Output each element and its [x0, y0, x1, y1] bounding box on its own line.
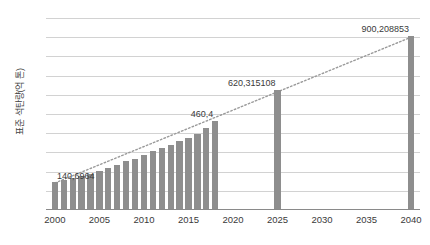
- bar: [185, 138, 191, 209]
- bar: [408, 36, 414, 209]
- gridline: [46, 133, 420, 134]
- x-tick-label: 2040: [401, 214, 422, 225]
- data-label: 140,6964: [57, 172, 95, 181]
- bar: [194, 134, 200, 209]
- bar: [274, 90, 280, 209]
- bar: [159, 148, 165, 209]
- gridline: [46, 152, 420, 153]
- bar: [203, 128, 209, 209]
- bar: [176, 141, 182, 209]
- bar: [114, 165, 120, 210]
- bar: [150, 151, 156, 209]
- x-axis-line: [46, 209, 420, 210]
- data-label: 460,4: [46, 110, 213, 119]
- x-tick-label: 2035: [356, 214, 377, 225]
- x-tick-label: 2000: [44, 214, 65, 225]
- gridline: [46, 76, 420, 77]
- bar: [212, 121, 218, 209]
- gridline: [46, 95, 420, 96]
- bar: [105, 168, 111, 209]
- x-tick-label: 2025: [267, 214, 288, 225]
- bar: [132, 159, 138, 209]
- chart-container: 표준 석탄량(억 톤) 0100200300400500600700800900…: [0, 0, 430, 245]
- bar: [61, 180, 67, 209]
- bar: [70, 178, 76, 209]
- bar: [123, 161, 129, 209]
- x-tick-label: 2015: [178, 214, 199, 225]
- plot-area: 140,6964460,4620,315108900,208853: [46, 18, 420, 210]
- bar: [141, 155, 147, 209]
- data-label: 620,315108: [46, 79, 276, 88]
- x-tick-label: 2030: [311, 214, 332, 225]
- bar: [52, 182, 58, 209]
- bar: [96, 171, 102, 209]
- x-tick-label: 2020: [222, 214, 243, 225]
- x-tick-label: 2005: [89, 214, 110, 225]
- y-axis-title: 표준 석탄량(억 톤): [13, 37, 26, 167]
- gridline: [46, 56, 420, 57]
- bar: [168, 145, 174, 209]
- gridline: [46, 37, 420, 38]
- x-axis-tick-labels: 200020052010201520202025203020352040: [46, 212, 420, 232]
- x-tick-label: 2010: [133, 214, 154, 225]
- gridline: [46, 18, 420, 19]
- data-label: 900,208853: [46, 25, 409, 34]
